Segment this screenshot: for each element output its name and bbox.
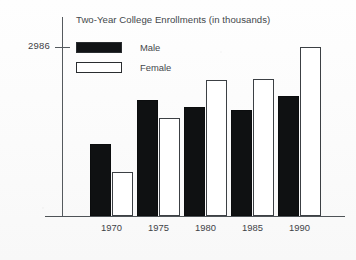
x-axis-label-1970: 1970 bbox=[90, 222, 134, 233]
bar-group-1985 bbox=[231, 17, 274, 216]
bar-group-1975 bbox=[137, 17, 180, 216]
x-axis-line bbox=[45, 216, 345, 217]
y-axis-tick-label: 2986 bbox=[0, 40, 50, 51]
bar-group-1990 bbox=[278, 17, 321, 216]
bar-male-1970 bbox=[90, 144, 111, 216]
bar-female-1970 bbox=[112, 172, 133, 216]
x-axis-label-1980: 1980 bbox=[184, 222, 228, 233]
bar-group-1980 bbox=[184, 17, 227, 216]
bar-male-1990 bbox=[278, 96, 299, 216]
bar-male-1975 bbox=[137, 100, 158, 216]
plot-area bbox=[62, 17, 345, 216]
x-axis-label-1985: 1985 bbox=[231, 222, 275, 233]
x-axis-label-1975: 1975 bbox=[137, 222, 181, 233]
bar-male-1980 bbox=[184, 107, 205, 216]
bar-female-1985 bbox=[253, 79, 274, 216]
bar-group-1970 bbox=[90, 17, 133, 216]
bar-chart: Two-Year College Enrollments (in thousan… bbox=[0, 0, 356, 260]
bar-female-1980 bbox=[206, 80, 227, 216]
bar-male-1985 bbox=[231, 110, 252, 216]
bar-female-1990 bbox=[300, 47, 321, 216]
x-axis-label-1990: 1990 bbox=[278, 222, 322, 233]
bar-female-1975 bbox=[159, 118, 180, 216]
